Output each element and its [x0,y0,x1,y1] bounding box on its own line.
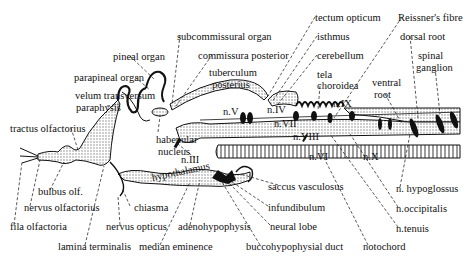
label-cerebellum: cerebellum [317,50,364,61]
brain-diagram: tectum opticum Reissner's fibre subcommi… [0,0,467,262]
label-n-hypoglossus: n. hypoglossus [396,183,458,194]
label-tectum-opticum: tectum opticum [315,12,381,23]
label-chiasma: chiasma [134,202,168,213]
habenular-nucleus-shape [152,108,168,116]
label-velum-transversum: velum transversum [75,90,155,101]
label-n-IV: n.IV [267,104,286,115]
label-n-VIII: n.VIII [293,131,319,142]
label-habenular: habenular [156,134,197,145]
label-ganglion: ganglion [416,62,453,73]
label-bulbus-olf: bulbus olf. [38,186,83,197]
label-dorsal-root: dorsal root [400,31,445,42]
label-commissura-posterior: commissura posterior [198,50,289,61]
label-posterius: posterius [212,79,250,90]
label-choroidea: choroidea [317,80,358,91]
label-n-VII: n.VII [274,118,296,129]
label-lamina-terminalis: lamina terminalis [58,241,131,252]
label-isthmus: isthmus [317,31,350,42]
label-subcommissural-organ: subcommissural organ [177,31,272,42]
fila-olfactoria-shape [20,148,38,163]
label-nervus-opticus: nervus opticus [106,221,167,232]
label-n-tenuis: n.tenuis [396,223,429,234]
label-parapineal-organ: parapineal organ [74,72,144,83]
label-spinal: spinal [418,50,443,61]
label-n-IX: n.IX [333,98,352,109]
label-n-X: n.X [363,151,378,162]
label-reissners-fibre: Reissner's fibre [398,12,463,23]
label-tela: tela [317,69,332,80]
label-pineal-organ: pineal organ [113,51,165,62]
chiasma-shape [110,162,124,196]
label-adenohypophysis: adenohypophysis [178,221,251,232]
label-fila-olfactoria: fila olfactoria [10,221,67,232]
notochord-shape [216,145,460,158]
label-median-eminence: median eminence [139,241,213,252]
label-tuberculum: tuberculum [209,67,257,78]
label-notochord: notochord [363,241,406,252]
label-n-occipitalis: n.occipitalis [396,203,447,214]
label-infundibulum: infundibulum [268,202,325,213]
label-n-VI: n.VI [309,151,328,162]
label-tractus-olfactorius: tractus olfactorius [10,123,86,134]
label-buccohypophysial-duct: buccohypophysial duct [246,241,343,252]
label-n-V: n.V [223,106,238,117]
label-ventral: ventral [372,77,401,88]
label-neural-lobe: neural lobe [270,221,317,232]
label-nervus-olfactorius: nervus olfactorius [24,202,100,213]
label-paraphysis: paraphysis [76,102,121,113]
label-root: root [374,89,391,100]
label-saccus-vasculosus: saccus vasculosus [268,181,344,192]
